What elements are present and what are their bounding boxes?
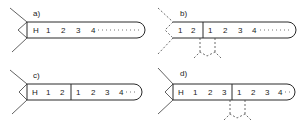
cell-1: 1	[178, 26, 183, 35]
cell-2: 2	[60, 88, 65, 97]
cone-tip-icon	[18, 22, 27, 38]
cone-lower-line	[158, 38, 173, 54]
panel-d: d) H 1 2 3 1 2 3 4	[158, 68, 295, 120]
panel-a-label: a)	[33, 9, 40, 18]
cell-1: 1	[193, 88, 198, 97]
panel-d-label: d)	[180, 69, 187, 78]
cone-lower-line	[12, 38, 27, 52]
strand-bar	[27, 22, 145, 38]
cell-1: 1	[46, 88, 51, 97]
cone-upper-line	[158, 68, 173, 84]
cell-h: H	[32, 88, 38, 97]
cell-2: 2	[208, 88, 213, 97]
cone-lower-line	[12, 100, 27, 114]
cell-h: H	[33, 26, 39, 35]
cell-2: 2	[191, 26, 196, 35]
cone-tip-icon	[165, 22, 173, 38]
cell-h: H	[178, 88, 184, 97]
cell-3: 3	[76, 26, 81, 35]
cone-upper-line	[158, 8, 173, 22]
cell-1: 1	[237, 88, 242, 97]
cell-3: 3	[105, 88, 110, 97]
diagram-stage: a) H 1 2 3 4 b) 1 2 1 2 3 4 c)	[0, 0, 305, 124]
cell-2: 2	[61, 26, 66, 35]
panel-c-label: c)	[33, 71, 40, 80]
fork-icon	[194, 52, 221, 58]
cell-2: 2	[251, 88, 256, 97]
strand-bar	[173, 84, 295, 100]
cone-upper-line	[10, 8, 27, 22]
cell-4: 4	[252, 26, 257, 35]
cell-3: 3	[222, 88, 227, 97]
cone-upper-line	[10, 70, 27, 84]
fork-icon	[224, 114, 251, 120]
cell-1: 1	[46, 26, 51, 35]
cone-tip-icon	[165, 84, 173, 100]
strand-diagram: a) H 1 2 3 4 b) 1 2 1 2 3 4 c)	[0, 0, 305, 124]
cell-2: 2	[91, 88, 96, 97]
cell-4: 4	[119, 88, 124, 97]
strand-bar	[27, 84, 142, 100]
cell-4: 4	[91, 26, 96, 35]
cell-2: 2	[223, 26, 228, 35]
panel-b-label: b)	[180, 9, 187, 18]
cell-1: 1	[76, 88, 81, 97]
cell-1: 1	[208, 26, 213, 35]
cell-3: 3	[238, 26, 243, 35]
panel-b: b) 1 2 1 2 3 4	[158, 8, 296, 58]
panel-a: a) H 1 2 3 4	[10, 8, 145, 52]
cone-lower-line	[158, 100, 173, 114]
cone-tip-icon	[19, 84, 27, 100]
panel-c: c) H 1 2 1 2 3 4	[10, 70, 142, 114]
cell-4: 4	[278, 88, 283, 97]
cell-3: 3	[265, 88, 270, 97]
